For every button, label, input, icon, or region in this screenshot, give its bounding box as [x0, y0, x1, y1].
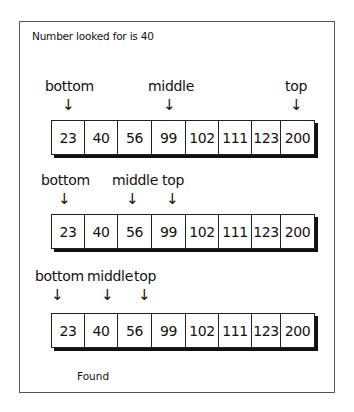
array-cell: 123	[252, 121, 281, 154]
array-cell: 99	[152, 121, 186, 154]
array-cell: 23	[52, 314, 85, 347]
step2-bottom-label: bottom	[41, 172, 90, 188]
result-found-label: Found	[77, 370, 109, 382]
step2-top-arrow-icon: ↓	[166, 191, 179, 207]
array-cell: 200	[281, 314, 314, 347]
step2-middle-label: middle	[112, 172, 158, 188]
step1-middle-label: middle	[148, 78, 194, 94]
array-cell: 123	[252, 314, 281, 347]
array-cell: 56	[118, 215, 152, 248]
array-cell: 99	[152, 215, 186, 248]
array-cell: 23	[52, 215, 85, 248]
array-cell: 102	[186, 121, 219, 154]
step2-top-label: top	[162, 172, 184, 188]
array-cell: 40	[85, 215, 118, 248]
step3-top-label: top	[134, 268, 156, 284]
step1-bottom-label: bottom	[45, 78, 94, 94]
array-cell: 111	[219, 314, 252, 347]
step3-top-arrow-icon: ↓	[138, 287, 151, 303]
array-cell: 200	[281, 215, 314, 248]
array-cell: 56	[118, 314, 152, 347]
array-cell: 102	[186, 314, 219, 347]
array-cell: 56	[118, 121, 152, 154]
step3-middle-arrow-icon: ↓	[101, 287, 114, 303]
step1-array: 23 40 56 99 102 111 123 200	[51, 120, 315, 155]
array-cell: 123	[252, 215, 281, 248]
array-cell: 111	[219, 121, 252, 154]
step2-array: 23 40 56 99 102 111 123 200	[51, 214, 315, 249]
step3-bottom-label: bottom	[35, 268, 84, 284]
step3-middle-label: middle	[87, 268, 133, 284]
array-cell: 102	[186, 215, 219, 248]
step1-top-arrow-icon: ↓	[290, 97, 303, 113]
step1-bottom-arrow-icon: ↓	[62, 97, 75, 113]
step2-bottom-arrow-icon: ↓	[58, 191, 71, 207]
array-cell: 99	[152, 314, 186, 347]
step2-middle-arrow-icon: ↓	[126, 191, 139, 207]
step1-middle-arrow-icon: ↓	[163, 97, 176, 113]
search-target-caption: Number looked for is 40	[32, 30, 154, 42]
array-cell: 111	[219, 215, 252, 248]
array-cell: 23	[52, 121, 85, 154]
array-cell: 200	[281, 121, 314, 154]
array-cell: 40	[85, 121, 118, 154]
step3-bottom-arrow-icon: ↓	[51, 287, 64, 303]
step3-array: 23 40 56 99 102 111 123 200	[51, 313, 315, 348]
array-cell: 40	[85, 314, 118, 347]
step1-top-label: top	[285, 78, 307, 94]
